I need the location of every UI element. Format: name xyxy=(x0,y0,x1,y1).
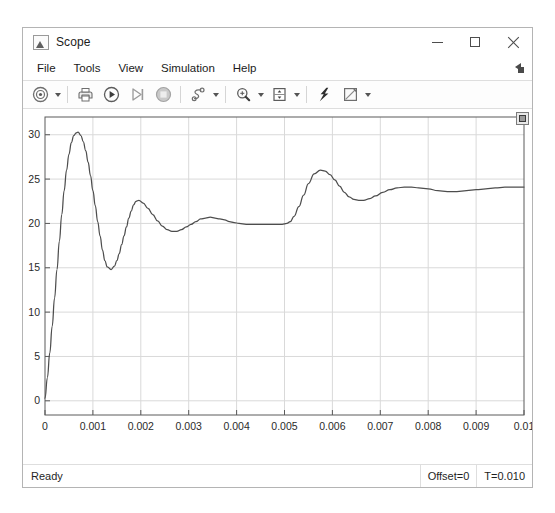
y-tick-label: 25 xyxy=(28,173,40,185)
status-offset: Offset=0 xyxy=(420,465,477,487)
scope-app-icon xyxy=(33,35,49,50)
y-tick-label: 30 xyxy=(28,128,40,140)
x-tick-label: 0.008 xyxy=(415,420,441,432)
x-tick-label: 0.01 xyxy=(514,420,532,432)
configuration-properties-caret[interactable] xyxy=(53,84,62,106)
floating-scope-icon[interactable] xyxy=(516,112,529,125)
configuration-properties-button[interactable] xyxy=(28,83,52,107)
x-tick-label: 0.001 xyxy=(80,420,106,432)
pencil-style-icon xyxy=(342,86,359,103)
step-forward-icon xyxy=(129,86,146,103)
y-tick-label: 20 xyxy=(28,217,40,229)
maximize-icon xyxy=(470,37,480,47)
window-controls xyxy=(418,28,532,56)
gear-target-icon xyxy=(32,86,49,103)
close-button[interactable] xyxy=(494,28,532,56)
status-indicators: Offset=0 T=0.010 xyxy=(420,465,532,487)
x-tick-label: 0.009 xyxy=(463,420,489,432)
y-tick-label: 10 xyxy=(28,306,40,318)
toolbar-separator-3 xyxy=(225,86,226,103)
stepping-options-icon xyxy=(190,86,207,103)
run-button[interactable] xyxy=(99,83,123,107)
step-forward-button[interactable] xyxy=(125,83,149,107)
close-icon xyxy=(507,36,520,49)
minimize-button[interactable] xyxy=(418,28,456,56)
y-tick-label: 5 xyxy=(34,350,40,362)
simulation-stepping-button[interactable] xyxy=(186,83,210,107)
printer-icon xyxy=(77,86,94,103)
autoscale-caret[interactable] xyxy=(292,84,301,106)
simulation-stepping-caret[interactable] xyxy=(211,84,220,106)
x-tick-label: 0.002 xyxy=(128,420,154,432)
toolbar xyxy=(23,81,532,109)
x-tick-label: 0 xyxy=(42,420,48,432)
autoscale-button[interactable] xyxy=(267,83,291,107)
cursor-measurements-button[interactable] xyxy=(312,83,336,107)
play-circle-icon xyxy=(103,86,120,103)
scope-window: Scope File Tools View Simulation Help xyxy=(22,27,533,488)
menu-item-file[interactable]: File xyxy=(29,59,64,77)
menu-overflow-arrow-icon[interactable] xyxy=(514,63,524,73)
x-tick-label: 0.004 xyxy=(223,420,249,432)
zoom-in-caret[interactable] xyxy=(256,84,265,106)
zoom-in-button[interactable] xyxy=(231,83,255,107)
title-bar: Scope xyxy=(23,28,532,56)
y-tick-label: 15 xyxy=(28,261,40,273)
menu-item-help[interactable]: Help xyxy=(225,59,265,77)
autoscale-icon xyxy=(271,86,288,103)
plot-area[interactable]: 05101520253000.0010.0020.0030.0040.0050.… xyxy=(23,109,532,464)
menu-item-view[interactable]: View xyxy=(110,59,151,77)
menu-item-simulation[interactable]: Simulation xyxy=(153,59,223,77)
x-tick-label: 0.007 xyxy=(367,420,393,432)
status-time: T=0.010 xyxy=(476,465,532,487)
magnifier-plus-icon xyxy=(235,86,252,103)
toolbar-separator-1 xyxy=(67,86,68,103)
menu-item-tools[interactable]: Tools xyxy=(66,59,109,77)
lightning-cursor-icon xyxy=(316,86,333,103)
stop-circle-icon xyxy=(155,86,172,103)
x-tick-label: 0.006 xyxy=(319,420,345,432)
window-title: Scope xyxy=(56,35,91,49)
toolbar-separator-4 xyxy=(306,86,307,103)
minimize-icon xyxy=(432,42,443,43)
menu-bar: File Tools View Simulation Help xyxy=(23,56,532,81)
maximize-button[interactable] xyxy=(456,28,494,56)
x-tick-label: 0.003 xyxy=(176,420,202,432)
style-caret[interactable] xyxy=(363,84,372,106)
status-message: Ready xyxy=(23,470,63,482)
print-button[interactable] xyxy=(73,83,97,107)
x-tick-label: 0.005 xyxy=(271,420,297,432)
toolbar-separator-2 xyxy=(180,86,181,103)
status-bar: Ready Offset=0 T=0.010 xyxy=(23,464,532,487)
scope-chart[interactable]: 05101520253000.0010.0020.0030.0040.0050.… xyxy=(23,109,532,447)
style-button[interactable] xyxy=(338,83,362,107)
y-tick-label: 0 xyxy=(34,394,40,406)
stop-button[interactable] xyxy=(151,83,175,107)
